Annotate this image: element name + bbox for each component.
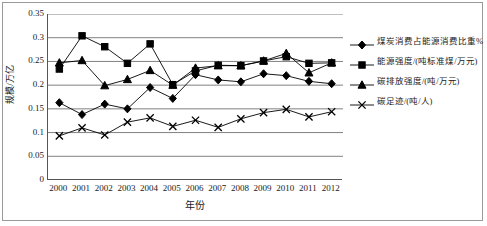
y-tick-label: 0.1	[33, 128, 44, 137]
series-4	[56, 106, 336, 140]
legend-item: 能源强度/(吨标准煤/万元)	[349, 56, 485, 69]
marker-diamond	[328, 80, 335, 88]
y-axis-tick-labels: 00.050.10.150.20.250.30.35	[10, 0, 44, 226]
chart-legend: 煤炭消费占能源消费比重%能源强度/(吨标准煤/万元)碳排放强度/(吨/万元)碳足…	[349, 36, 485, 116]
plot-area	[47, 14, 342, 180]
marker-cross	[169, 123, 176, 130]
marker-cross	[56, 132, 63, 139]
marker-diamond	[358, 41, 365, 49]
series-2	[56, 33, 335, 88]
y-tick-label: 0.05	[28, 151, 44, 160]
series-3	[55, 49, 335, 89]
x-axis-title: 年份	[47, 197, 342, 212]
y-tick-label: 0.15	[28, 104, 44, 113]
marker-triangle	[358, 81, 366, 88]
marker-diamond	[56, 99, 63, 107]
marker-triangle	[123, 75, 131, 82]
series-line	[59, 109, 331, 136]
legend-marker-square-icon	[349, 57, 375, 69]
marker-diamond	[283, 72, 290, 80]
marker-diamond	[78, 111, 85, 119]
legend-marker-triangle-icon	[349, 77, 375, 89]
marker-diamond	[305, 77, 312, 85]
y-tick-label: 0.3	[33, 33, 44, 42]
marker-diamond	[260, 70, 267, 78]
y-tick-label: 0.2	[33, 80, 44, 89]
marker-square	[102, 44, 108, 50]
legend-item: 碳排放强度/(吨/万元)	[349, 76, 485, 89]
marker-diamond	[215, 76, 222, 84]
marker-cross	[305, 113, 312, 120]
y-tick-label: 0.25	[28, 56, 44, 65]
marker-cross	[192, 117, 199, 124]
legend-item: 碳足迹/(吨/人)	[349, 96, 485, 109]
y-tick-label: 0.35	[28, 9, 44, 18]
marker-cross	[215, 124, 222, 131]
marker-triangle	[78, 56, 86, 63]
x-tick-label: 2012	[315, 183, 347, 193]
legend-marker-cross-icon	[349, 97, 375, 109]
marker-triangle	[305, 69, 313, 76]
marker-square	[56, 66, 62, 72]
legend-item: 煤炭消费占能源消费比重%	[349, 36, 485, 49]
marker-square	[79, 33, 85, 39]
marker-square	[147, 41, 153, 47]
chart-container: 规模/万亿 00.050.10.150.20.250.30.35 2000200…	[0, 0, 487, 226]
legend-label: 碳排放强度/(吨/万元)	[375, 76, 459, 86]
marker-diamond	[101, 100, 108, 108]
marker-square	[124, 60, 130, 66]
marker-cross	[124, 119, 131, 126]
legend-marker-diamond-icon	[349, 37, 375, 49]
marker-diamond	[237, 78, 244, 86]
legend-label: 煤炭消费占能源消费比重%	[375, 36, 483, 46]
marker-square	[359, 62, 365, 68]
marker-triangle	[146, 66, 154, 73]
marker-square	[306, 60, 312, 66]
legend-label: 能源强度/(吨标准煤/万元)	[375, 56, 477, 66]
series-canvas	[48, 14, 343, 180]
legend-label: 碳足迹/(吨/人)	[375, 96, 432, 106]
marker-triangle	[282, 49, 290, 56]
marker-cross	[78, 124, 85, 131]
marker-cross	[147, 114, 154, 121]
marker-cross	[237, 115, 244, 122]
